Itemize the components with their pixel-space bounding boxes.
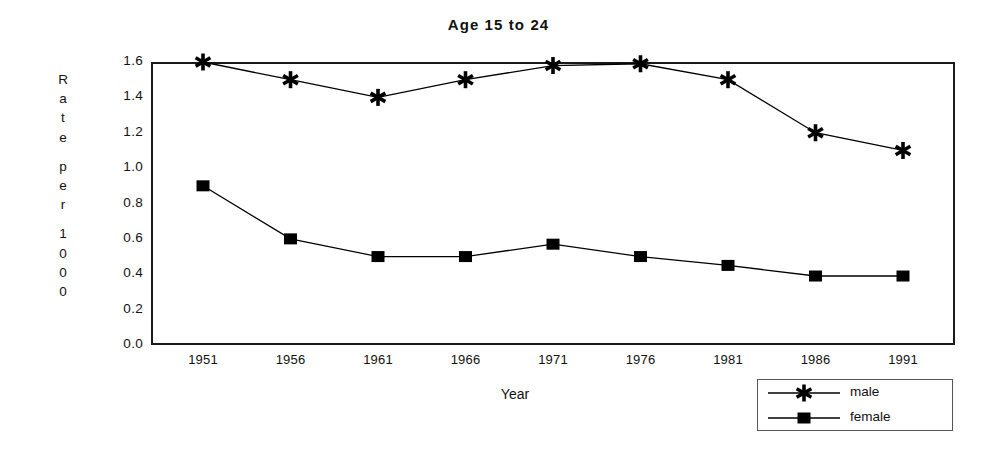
asterisk-marker (896, 142, 911, 159)
asterisk-marker (371, 89, 386, 106)
series-line-male (203, 62, 903, 150)
y-axis-label-gap (50, 214, 76, 224)
y-axis-label-char: 0 (50, 263, 76, 282)
y-axis-label-char: r (50, 195, 76, 214)
legend-item-male[interactable]: male (758, 380, 954, 406)
y-axis-label-char: t (50, 108, 76, 127)
x-axis-tick-label: 1966 (426, 352, 506, 367)
x-axis-tick-label: 1986 (776, 352, 856, 367)
square-marker (284, 233, 297, 244)
legend-sample-male (766, 380, 842, 406)
asterisk-marker (458, 71, 473, 88)
legend-item-female[interactable]: female (758, 405, 954, 431)
x-axis-tick-label: 1981 (688, 352, 768, 367)
y-axis-tick-label: 0.4 (101, 265, 143, 280)
y-axis-label-char: R (50, 70, 76, 89)
square-marker (897, 271, 910, 282)
asterisk-marker (283, 71, 298, 88)
legend-label: female (850, 409, 891, 424)
y-axis-label-gap (50, 147, 76, 157)
square-marker (197, 180, 210, 191)
asterisk-marker (721, 71, 736, 88)
x-axis-tick-label: 1976 (601, 352, 681, 367)
series-line-female (203, 186, 903, 276)
y-axis-label-char: a (50, 89, 76, 108)
square-marker (722, 260, 735, 271)
x-axis-label: Year (455, 386, 575, 402)
square-marker (459, 251, 472, 262)
asterisk-marker (196, 54, 211, 71)
y-axis-tick-label: 0.2 (101, 301, 143, 316)
x-axis-tick-label: 1961 (338, 352, 418, 367)
series-female (197, 180, 910, 281)
square-marker (809, 271, 822, 282)
legend-label: male (850, 384, 879, 399)
plot-series-layer (151, 62, 955, 345)
y-axis-label: Rateper1000 (50, 70, 76, 301)
square-marker (372, 251, 385, 262)
chart-title: Age 15 to 24 (0, 16, 997, 33)
y-axis-tick-label: 1.2 (101, 124, 143, 139)
square-marker (634, 251, 647, 262)
asterisk-marker (808, 124, 823, 141)
y-axis-tick-label: 0.0 (101, 336, 143, 351)
y-axis-tick-label: 1.0 (101, 159, 143, 174)
chart-legend: malefemale (757, 379, 953, 431)
x-axis-tick-label: 1951 (163, 352, 243, 367)
y-axis-tick-label: 0.8 (101, 195, 143, 210)
chart-figure: Age 15 to 24 Rateper1000 0.00.20.40.60.8… (0, 0, 997, 454)
y-axis-label-char: e (50, 176, 76, 195)
y-axis-label-char: 1 (50, 224, 76, 243)
square-marker (547, 239, 560, 250)
x-axis-tick-label: 1991 (863, 352, 943, 367)
series-male (196, 54, 911, 159)
y-axis-tick-label: 0.6 (101, 230, 143, 245)
y-axis-label-char: 0 (50, 244, 76, 263)
square-marker (798, 413, 811, 424)
y-axis-tick-label: 1.6 (101, 53, 143, 68)
x-axis-tick-label: 1956 (251, 352, 331, 367)
y-axis-label-char: p (50, 157, 76, 176)
y-axis-label-char: 0 (50, 282, 76, 301)
legend-sample-female (766, 405, 842, 431)
y-axis-label-char: e (50, 128, 76, 147)
x-axis-tick-label: 1971 (513, 352, 593, 367)
y-axis-tick-label: 1.4 (101, 88, 143, 103)
